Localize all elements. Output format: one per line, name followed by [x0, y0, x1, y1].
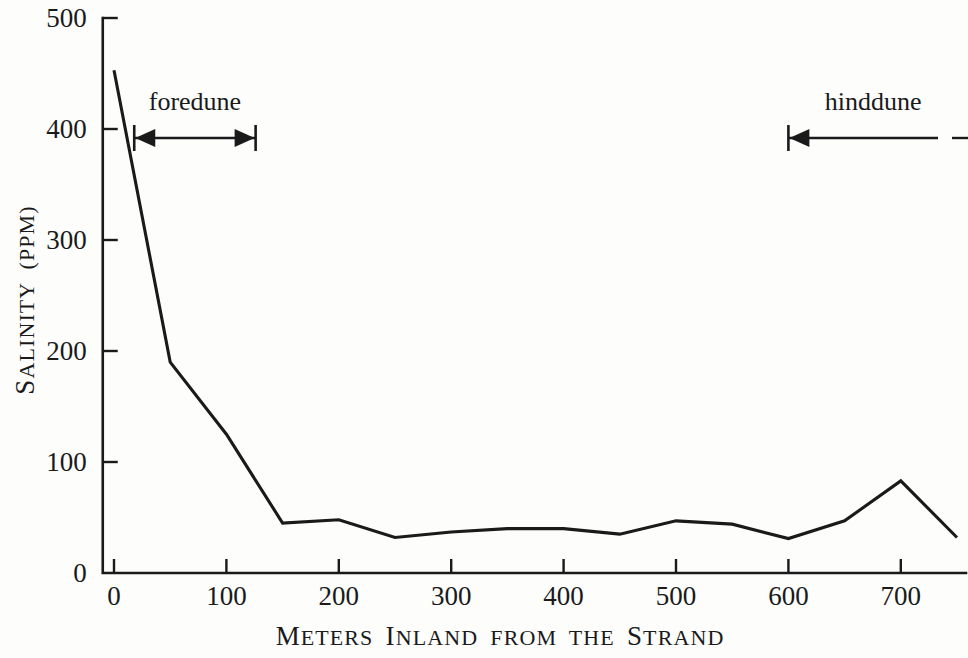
salinity-chart-figure: 0100200300400500600700 0100200300400500 …	[0, 0, 968, 658]
foredune-left-arrowhead	[135, 129, 155, 147]
y-tick-label-200: 200	[46, 336, 87, 366]
x-axis-title-group: METERS INLAND FROM THE STRAND	[276, 621, 725, 651]
x-tick-label-0: 0	[107, 581, 121, 611]
x-tick-label-400: 400	[543, 581, 584, 611]
foredune-label: foredune	[149, 87, 241, 116]
x-axis-title: METERS INLAND FROM THE STRAND	[276, 621, 725, 651]
x-tick-label-200: 200	[319, 581, 360, 611]
y-tick-label-0: 0	[73, 558, 87, 588]
hinddune-left-arrowhead	[789, 129, 809, 147]
foredune-annotation: foredune	[134, 87, 255, 151]
x-axis-tick-labels: 0100200300400500600700	[107, 581, 921, 611]
hinddune-label: hinddune	[825, 87, 922, 116]
x-tick-label-600: 600	[768, 581, 809, 611]
y-axis-title-group: SALINITY (PPM)	[10, 205, 40, 394]
y-tick-label-300: 300	[46, 225, 87, 255]
x-axis-tick-marks	[114, 559, 901, 573]
hinddune-annotation: hinddune	[788, 87, 968, 151]
y-axis-title: SALINITY (PPM)	[10, 205, 40, 394]
x-tick-label-100: 100	[206, 581, 247, 611]
y-axis-tick-labels: 0100200300400500	[46, 3, 87, 588]
x-tick-label-700: 700	[881, 581, 922, 611]
x-tick-label-300: 300	[431, 581, 472, 611]
y-tick-label-500: 500	[46, 3, 87, 33]
y-tick-label-400: 400	[46, 114, 87, 144]
chart-canvas: 0100200300400500600700 0100200300400500 …	[0, 0, 968, 658]
foredune-right-arrowhead	[235, 129, 255, 147]
y-tick-label-100: 100	[46, 447, 87, 477]
x-tick-label-500: 500	[656, 581, 697, 611]
